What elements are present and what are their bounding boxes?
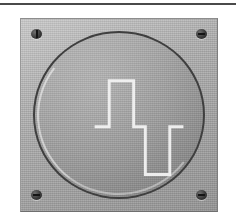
round-dial[interactable] [33, 31, 205, 199]
screw-icon-top-right [196, 29, 207, 39]
face-plate [20, 18, 218, 212]
image-scene [0, 0, 236, 223]
screw-icon-top-left [31, 29, 42, 39]
horizontal-rule [0, 3, 236, 5]
screw-icon-bottom-right [196, 190, 207, 200]
square-wave-path [95, 81, 184, 175]
square-wave-icon [35, 33, 203, 197]
screw-slot [198, 33, 206, 35]
screw-icon-bottom-left [31, 190, 42, 200]
dial-shading [35, 33, 203, 197]
dial-bevel-highlight [33, 31, 205, 199]
dial-texture [35, 33, 203, 197]
screw-slot [198, 194, 206, 196]
screw-slot [36, 30, 38, 37]
screw-slot [33, 194, 41, 196]
